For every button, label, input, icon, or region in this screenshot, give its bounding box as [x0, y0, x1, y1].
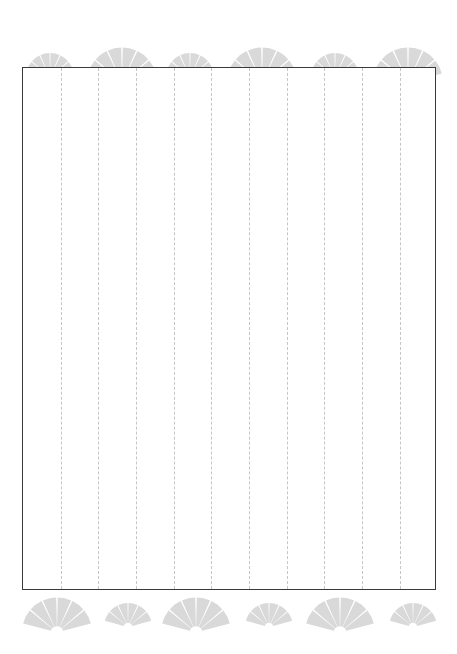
fan-bottom-5-icon: [303, 595, 377, 636]
rule-line-group: [23, 68, 435, 589]
rule-line-9: [362, 68, 363, 589]
rule-line-6: [249, 68, 250, 589]
ruled-writing-area[interactable]: [22, 67, 436, 590]
rule-line-3: [136, 68, 137, 589]
fan-bottom-4-icon: [243, 600, 295, 630]
rule-line-2: [98, 68, 99, 589]
rule-line-7: [287, 68, 288, 589]
rule-line-5: [211, 68, 212, 589]
fan-bottom-2-icon: [102, 600, 154, 630]
fan-bottom-1-icon: [20, 595, 94, 636]
ornament-row-bottom: [0, 592, 457, 640]
rule-line-8: [324, 68, 325, 589]
fan-bottom-6-icon: [387, 600, 439, 630]
rule-line-10: [400, 68, 401, 589]
fan-bottom-3-icon: [159, 595, 233, 636]
rule-line-4: [174, 68, 175, 589]
rule-line-1: [61, 68, 62, 589]
page-canvas: [0, 0, 457, 654]
ornament-row-top: [0, 20, 457, 68]
